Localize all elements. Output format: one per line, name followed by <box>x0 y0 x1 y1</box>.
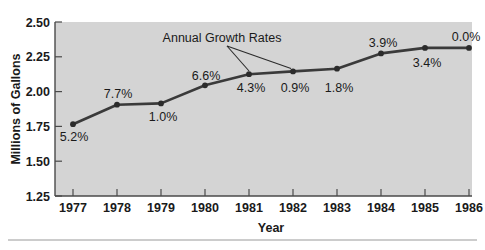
data-point <box>202 82 208 88</box>
data-point <box>290 69 296 75</box>
x-tick-label: 1977 <box>59 201 87 215</box>
growth-rate-label: 6.6% <box>192 69 221 83</box>
y-axis-title: Millions of Gallons <box>9 53 23 164</box>
x-tick-label: 1985 <box>411 201 439 215</box>
growth-rate-label: 1.0% <box>149 110 178 124</box>
data-point <box>378 51 384 57</box>
growth-rate-label: 3.9% <box>369 36 398 50</box>
x-tick-label: 1979 <box>147 201 175 215</box>
x-tick-label: 1978 <box>103 201 131 215</box>
data-point <box>466 45 472 51</box>
x-axis-title: Year <box>258 221 285 235</box>
y-tick-label: 1.75 <box>26 120 50 134</box>
x-tick-label: 1986 <box>455 201 483 215</box>
x-tick-label: 1980 <box>191 201 219 215</box>
y-tick-label: 2.50 <box>26 16 50 30</box>
x-tick-label: 1984 <box>367 201 395 215</box>
growth-rate-label: 0.0% <box>452 30 481 44</box>
growth-rate-label: 4.3% <box>237 81 266 95</box>
growth-rate-label: 7.7% <box>104 87 133 101</box>
growth-line-chart: 1.25 1.50 1.75 2.00 2.25 2.50 1977 1978 … <box>0 0 485 250</box>
x-tick-label: 1981 <box>235 201 263 215</box>
growth-rate-label: 0.9% <box>281 81 310 95</box>
data-point <box>334 66 340 72</box>
y-tick-label: 2.25 <box>26 50 50 64</box>
data-point <box>246 71 252 77</box>
y-tick-label: 2.00 <box>26 85 50 99</box>
y-tick-label: 1.25 <box>26 190 50 204</box>
data-point <box>114 102 120 108</box>
x-tick-label: 1982 <box>279 201 307 215</box>
growth-rate-label: 1.8% <box>325 81 354 95</box>
data-point <box>422 45 428 51</box>
growth-rate-label: 3.4% <box>413 56 442 70</box>
annotation-label: Annual Growth Rates <box>163 31 282 45</box>
y-tick-label: 1.50 <box>26 155 50 169</box>
data-point <box>70 121 76 127</box>
chart-figure: 1.25 1.50 1.75 2.00 2.25 2.50 1977 1978 … <box>0 0 485 250</box>
data-point <box>158 101 164 107</box>
plot-area-background <box>55 22 472 196</box>
growth-rate-label: 5.2% <box>60 130 89 144</box>
x-tick-label: 1983 <box>323 201 351 215</box>
